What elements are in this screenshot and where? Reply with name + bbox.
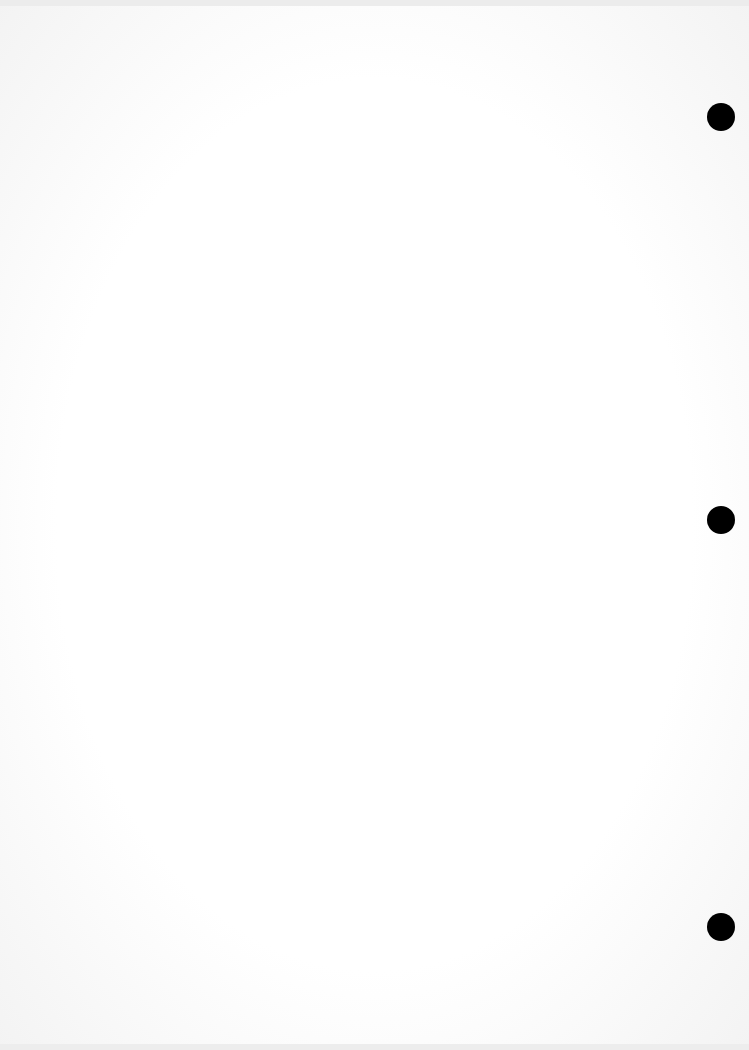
punch-hole-top bbox=[707, 103, 735, 131]
page-edge-bottom bbox=[0, 1044, 749, 1050]
page-edge-top bbox=[0, 0, 749, 6]
scanned-page bbox=[0, 0, 749, 1050]
punch-hole-bottom bbox=[707, 913, 735, 941]
punch-hole-middle bbox=[707, 506, 735, 534]
